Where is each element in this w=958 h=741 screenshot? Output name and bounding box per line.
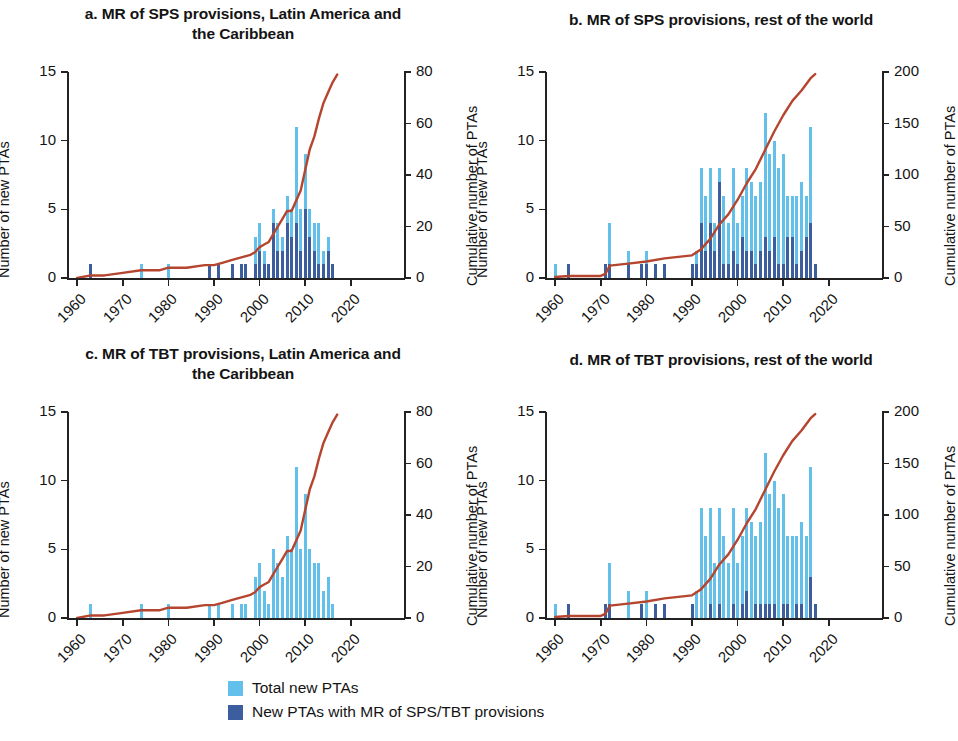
right-tick-label: 80 bbox=[416, 62, 460, 79]
left-axis-title-c: Number of new PTAs bbox=[0, 481, 12, 618]
x-tick bbox=[122, 619, 124, 626]
panel-title-line: the Caribbean bbox=[42, 364, 444, 384]
left-tick-label: 15 bbox=[486, 62, 534, 79]
left-axis-spine bbox=[545, 72, 547, 278]
x-tick-label: 1990 bbox=[173, 290, 226, 343]
right-tick-label: 0 bbox=[894, 268, 938, 285]
right-tick bbox=[404, 174, 411, 176]
left-tick bbox=[539, 549, 546, 551]
x-tick-label: 2010 bbox=[742, 630, 795, 683]
x-tick-label: 2000 bbox=[219, 290, 272, 343]
x-tick-label: 1980 bbox=[605, 290, 658, 343]
figure-legend: Total new PTAsNew PTAs with MR of SPS/TB… bbox=[228, 676, 544, 724]
right-tick-label: 80 bbox=[416, 402, 460, 419]
right-tick bbox=[404, 123, 411, 125]
x-tick-label: 2000 bbox=[697, 630, 750, 683]
x-tick bbox=[737, 619, 739, 626]
x-tick bbox=[259, 619, 261, 626]
panel-title-line: c. MR of TBT provisions, Latin America a… bbox=[42, 344, 444, 364]
panel-title-b: b. MR of SPS provisions, rest of the wor… bbox=[478, 10, 956, 30]
left-tick-label: 5 bbox=[486, 199, 534, 216]
left-tick-label: 5 bbox=[8, 539, 56, 556]
right-tick bbox=[882, 71, 889, 73]
right-tick bbox=[404, 226, 411, 228]
right-tick bbox=[882, 277, 889, 279]
right-tick-label: 0 bbox=[416, 268, 460, 285]
left-axis-spine bbox=[67, 412, 69, 618]
right-tick bbox=[404, 463, 411, 465]
plot-area-d: 0510150501001502001960197019801990200020… bbox=[546, 412, 838, 618]
left-tick bbox=[61, 140, 68, 142]
left-tick bbox=[539, 71, 546, 73]
x-axis-spine bbox=[67, 618, 405, 620]
legend-item-total: Total new PTAs bbox=[228, 676, 544, 700]
x-tick bbox=[600, 279, 602, 286]
x-tick-label: 2020 bbox=[310, 290, 363, 343]
plot-area-a: 0510150204060801960197019801990200020102… bbox=[68, 72, 360, 278]
right-tick bbox=[882, 123, 889, 125]
right-tick-label: 50 bbox=[894, 557, 938, 574]
right-tick bbox=[404, 277, 411, 279]
x-tick bbox=[600, 619, 602, 626]
left-tick-label: 15 bbox=[486, 402, 534, 419]
x-tick bbox=[350, 619, 352, 626]
x-tick bbox=[76, 279, 78, 286]
right-tick bbox=[404, 514, 411, 516]
panel-title-c: c. MR of TBT provisions, Latin America a… bbox=[0, 344, 478, 385]
x-tick bbox=[828, 619, 830, 626]
right-tick bbox=[404, 71, 411, 73]
x-axis-spine bbox=[545, 278, 883, 280]
right-tick bbox=[404, 617, 411, 619]
x-axis-spine bbox=[67, 278, 405, 280]
cumulative-line-b bbox=[546, 72, 838, 278]
x-tick bbox=[828, 279, 830, 286]
left-tick bbox=[539, 480, 546, 482]
right-tick-label: 20 bbox=[416, 557, 460, 574]
right-tick-label: 200 bbox=[894, 62, 938, 79]
right-tick bbox=[882, 226, 889, 228]
panel-a: a. MR of SPS provisions, Latin America a… bbox=[0, 0, 478, 340]
left-tick-label: 15 bbox=[8, 62, 56, 79]
panel-b: b. MR of SPS provisions, rest of the wor… bbox=[478, 0, 956, 340]
left-axis-spine bbox=[545, 412, 547, 618]
right-axis-title-d: Cumulative number of PTAs bbox=[942, 446, 958, 626]
right-axis-title-b: Cumulative number of PTAs bbox=[942, 106, 958, 286]
panel-title-line: a. MR of SPS provisions, Latin America a… bbox=[42, 4, 444, 24]
left-tick-label: 0 bbox=[486, 268, 534, 285]
left-tick bbox=[539, 140, 546, 142]
x-tick-label: 1960 bbox=[514, 290, 567, 343]
left-tick bbox=[61, 209, 68, 211]
left-axis-title-a: Number of new PTAs bbox=[0, 141, 12, 278]
right-tick bbox=[882, 174, 889, 176]
right-tick bbox=[882, 411, 889, 413]
panel-title-a: a. MR of SPS provisions, Latin America a… bbox=[0, 4, 478, 45]
x-tick-label: 1980 bbox=[127, 290, 180, 343]
x-axis-spine bbox=[545, 618, 883, 620]
left-axis-title-b: Number of new PTAs bbox=[474, 141, 490, 278]
right-tick-label: 50 bbox=[894, 217, 938, 234]
x-tick-label: 2000 bbox=[697, 290, 750, 343]
right-tick bbox=[882, 463, 889, 465]
x-tick-label: 1960 bbox=[36, 290, 89, 343]
left-tick-label: 0 bbox=[8, 608, 56, 625]
right-tick-label: 40 bbox=[416, 165, 460, 182]
cumulative-line-d bbox=[546, 412, 838, 618]
x-tick bbox=[554, 279, 556, 286]
left-tick-label: 10 bbox=[8, 471, 56, 488]
right-tick-label: 60 bbox=[416, 454, 460, 471]
plot-area-b: 0510150501001502001960197019801990200020… bbox=[546, 72, 838, 278]
x-tick bbox=[213, 279, 215, 286]
x-tick bbox=[646, 619, 648, 626]
x-tick bbox=[168, 279, 170, 286]
right-tick-label: 0 bbox=[416, 608, 460, 625]
x-tick-label: 2020 bbox=[788, 290, 841, 343]
panel-title-line: b. MR of SPS provisions, rest of the wor… bbox=[520, 10, 922, 30]
x-tick-label: 1970 bbox=[82, 290, 135, 343]
x-tick bbox=[259, 279, 261, 286]
x-tick-label: 1990 bbox=[173, 630, 226, 683]
right-tick-label: 60 bbox=[416, 114, 460, 131]
x-tick-label: 1970 bbox=[82, 630, 135, 683]
right-tick bbox=[882, 514, 889, 516]
x-tick bbox=[691, 279, 693, 286]
x-tick-label: 1980 bbox=[605, 630, 658, 683]
